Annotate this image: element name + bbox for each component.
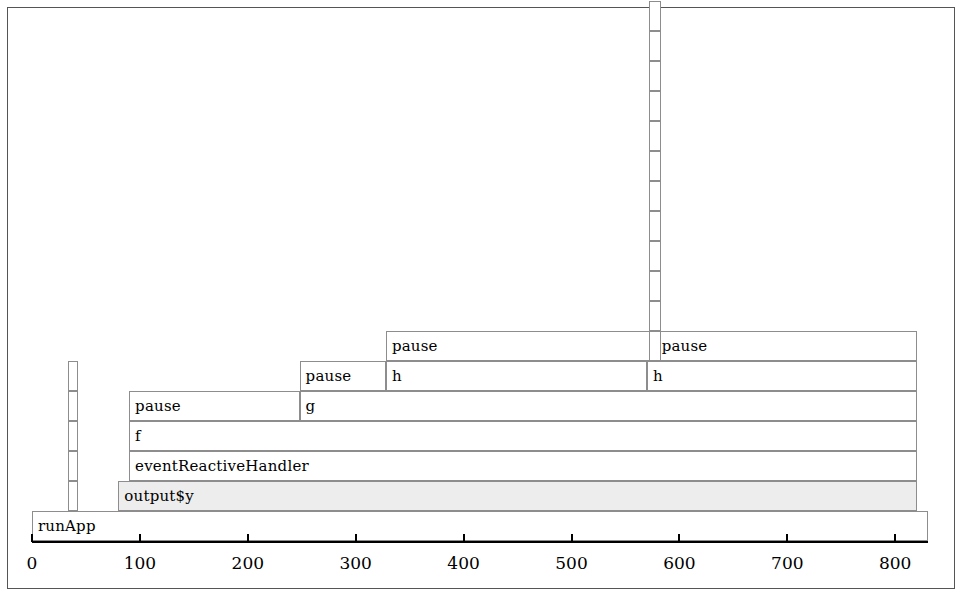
narrow-stack-cell[interactable]: [649, 1, 661, 31]
flame-block[interactable]: g: [300, 391, 917, 421]
narrow-stack-cell[interactable]: [649, 241, 661, 271]
flamegraph-plot-area: runAppoutput$yeventReactiveHandlerfpause…: [0, 0, 964, 598]
x-axis-tick-label: 0: [27, 553, 38, 573]
narrow-stack-cell[interactable]: [649, 121, 661, 151]
x-axis-tick-label: 500: [555, 553, 587, 573]
x-axis-tick-label: 700: [771, 553, 803, 573]
x-axis-tick: [139, 534, 141, 542]
narrow-stack-cell[interactable]: [649, 91, 661, 121]
flame-block[interactable]: h: [386, 361, 647, 391]
flame-block[interactable]: eventReactiveHandler: [129, 451, 917, 481]
narrow-stack-cell[interactable]: [68, 451, 79, 481]
flame-block-label: eventReactiveHandler: [135, 459, 309, 474]
narrow-stack-cell[interactable]: [649, 301, 661, 331]
flame-block-label: pause: [135, 399, 181, 414]
flame-block-label: output$y: [124, 489, 194, 504]
flame-block[interactable]: pause: [386, 331, 656, 361]
flamegraph-screenshot: runAppoutput$yeventReactiveHandlerfpause…: [0, 0, 964, 598]
narrow-stack-cell[interactable]: [649, 151, 661, 181]
flame-block[interactable]: pause: [656, 331, 917, 361]
flame-block-label: pause: [662, 339, 708, 354]
narrow-stack-cell[interactable]: [68, 361, 79, 391]
narrow-stack-cell[interactable]: [649, 181, 661, 211]
flame-block[interactable]: h: [647, 361, 917, 391]
flame-block-label: runApp: [38, 519, 96, 534]
x-axis-tick: [894, 534, 896, 542]
x-axis-tick: [31, 534, 33, 542]
narrow-stack-cell[interactable]: [649, 61, 661, 91]
narrow-stack-cell[interactable]: [68, 421, 79, 451]
flame-block-label: pause: [392, 339, 438, 354]
flame-block-label: h: [653, 369, 663, 384]
flame-block[interactable]: runApp: [32, 511, 928, 541]
x-axis-tick: [463, 534, 465, 542]
flame-block-label: h: [392, 369, 402, 384]
x-axis-tick-label: 200: [232, 553, 264, 573]
narrow-stack-cell[interactable]: [649, 31, 661, 61]
flame-block-label: pause: [306, 369, 352, 384]
flame-block[interactable]: pause: [129, 391, 299, 421]
x-axis-tick: [678, 534, 680, 542]
x-axis-tick-label: 100: [124, 553, 156, 573]
x-axis-tick: [571, 534, 573, 542]
x-axis-tick-label: 400: [447, 553, 479, 573]
x-axis-tick-label: 600: [663, 553, 695, 573]
narrow-stack-cell[interactable]: [649, 271, 661, 301]
x-axis-tick-label: 800: [879, 553, 911, 573]
x-axis-tick: [786, 534, 788, 542]
narrow-stack-cell[interactable]: [68, 481, 79, 511]
x-axis-tick-label: 300: [339, 553, 371, 573]
x-axis-tick: [355, 534, 357, 542]
x-axis-tick: [247, 534, 249, 542]
narrow-stack-cell[interactable]: [649, 331, 661, 361]
x-axis-line: [32, 541, 928, 543]
flame-block[interactable]: pause: [300, 361, 386, 391]
narrow-stack-cell[interactable]: [649, 211, 661, 241]
flame-block[interactable]: f: [129, 421, 917, 451]
flame-block-label: g: [306, 399, 316, 414]
flame-block-label: f: [135, 429, 141, 444]
flame-block[interactable]: output$y: [118, 481, 916, 511]
narrow-stack-cell[interactable]: [68, 391, 79, 421]
